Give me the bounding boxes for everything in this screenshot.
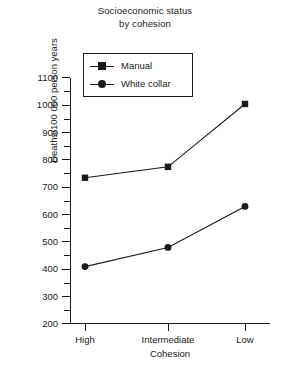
legend-label: White collar — [121, 77, 171, 91]
chart-legend: Manual White collar — [83, 53, 193, 97]
chart-figure: Socioeconomic status by cohesion Deaths/… — [0, 0, 290, 369]
series-line — [85, 206, 245, 266]
square-marker-icon — [98, 62, 106, 70]
circle-marker-icon — [165, 244, 172, 251]
legend-item-manual: Manual — [90, 59, 190, 73]
square-marker-icon — [242, 101, 248, 107]
legend-label: Manual — [121, 59, 152, 73]
circle-marker-icon — [82, 263, 89, 270]
legend-item-white-collar: White collar — [90, 77, 190, 91]
square-marker-icon — [165, 164, 171, 170]
square-marker-icon — [82, 175, 88, 181]
circle-marker-icon — [242, 203, 249, 210]
circle-marker-icon — [98, 80, 106, 88]
